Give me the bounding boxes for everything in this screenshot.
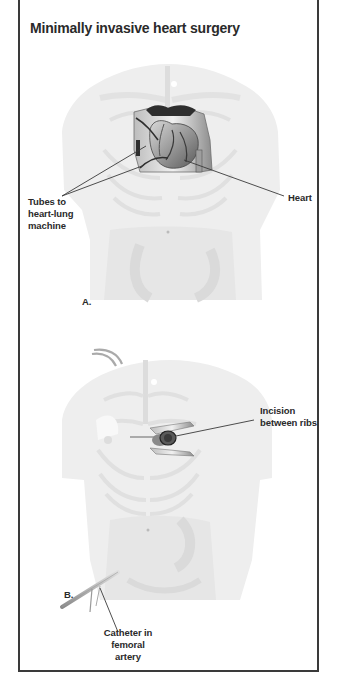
label-heart: Heart bbox=[288, 192, 312, 204]
panel-marker-a: A. bbox=[82, 296, 91, 308]
label-incision-between-ribs: Incision between ribs bbox=[260, 405, 317, 429]
illustration-canvas bbox=[0, 0, 337, 690]
label-catheter-in-femoral-artery: Catheter in femoral artery bbox=[98, 627, 158, 663]
panel-marker-b: B. bbox=[64, 589, 73, 601]
open-chest-heart bbox=[134, 105, 212, 172]
torso-a bbox=[62, 64, 280, 300]
label-tubes-to-heart-lung-machine: Tubes to heart-lung machine bbox=[28, 196, 73, 232]
torso-b bbox=[62, 360, 272, 600]
wire bbox=[92, 350, 122, 366]
